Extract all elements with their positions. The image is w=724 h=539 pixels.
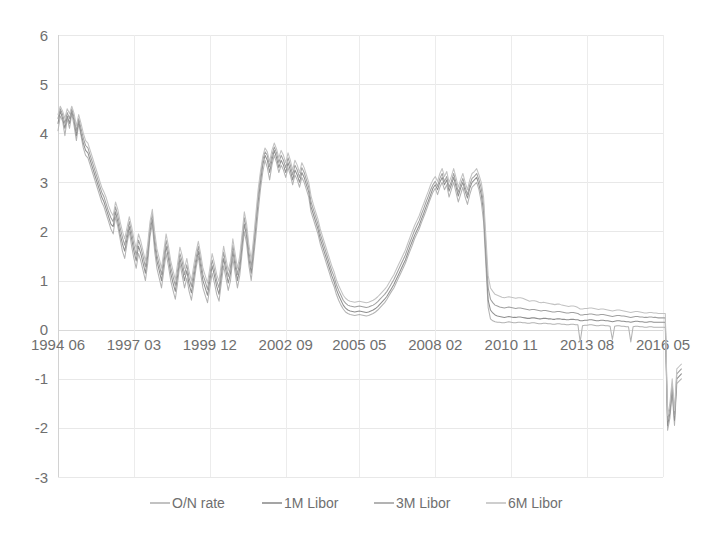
y-tick-label-4: 4	[40, 125, 48, 142]
chart-svg: 6543210-1-2-3 1994 061997 031999 122002 …	[0, 0, 724, 539]
x-tick-label-2002-09: 2002 09	[259, 336, 313, 353]
y-tick-label-3: 3	[40, 174, 48, 191]
x-tick-label-2005-05: 2005 05	[332, 336, 386, 353]
y-tick-label-2: 2	[40, 223, 48, 240]
y-tick-label--2: -2	[35, 419, 48, 436]
legend-label-1: O/N rate	[172, 495, 225, 511]
legend-label-2: 1M Libor	[284, 495, 339, 511]
y-axis-tick-labels: 6543210-1-2-3	[35, 27, 48, 486]
x-tick-label-2008-02: 2008 02	[408, 336, 462, 353]
y-tick-label--3: -3	[35, 469, 48, 486]
x-axis-tick-labels: 1994 061997 031999 122002 092005 052008 …	[31, 336, 690, 353]
x-tick-label-2013-08: 2013 08	[560, 336, 614, 353]
interest-rate-line-chart: 6543210-1-2-3 1994 061997 031999 122002 …	[0, 0, 724, 539]
y-tick-label-6: 6	[40, 27, 48, 44]
y-tick-label--1: -1	[35, 370, 48, 387]
legend-label-4: 6M Libor	[508, 495, 563, 511]
y-tick-label-1: 1	[40, 272, 48, 289]
grid-vertical	[135, 35, 664, 477]
x-tick-label-1997-03: 1997 03	[107, 336, 161, 353]
legend-label-3: 3M Libor	[396, 495, 451, 511]
chart-legend: O/N rate1M Libor3M Libor6M Libor	[150, 495, 563, 511]
x-tick-label-2016-05: 2016 05	[636, 336, 690, 353]
x-tick-label-2010-11: 2010 11	[485, 336, 538, 353]
y-tick-label-5: 5	[40, 76, 48, 93]
x-tick-label-1999-12: 1999 12	[183, 336, 237, 353]
x-tick-label-1994-06: 1994 06	[31, 336, 85, 353]
